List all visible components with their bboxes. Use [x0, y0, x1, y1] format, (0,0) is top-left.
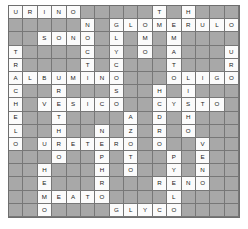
grid-cell-letter[interactable]: Y	[167, 98, 181, 111]
grid-cell-letter[interactable]: T	[81, 59, 95, 72]
grid-cell-letter[interactable]: O	[225, 19, 239, 32]
grid-cell-letter[interactable]: R	[52, 138, 66, 151]
grid-cell-letter[interactable]: H	[182, 112, 196, 125]
grid-cell-letter[interactable]: L	[110, 32, 124, 45]
grid-cell-letter[interactable]: N	[81, 19, 95, 32]
crossword-grid[interactable]: URINOTHNGLOMERULOSONOLMMTCYOAURTCTRALBUM…	[8, 5, 240, 218]
grid-cell-letter[interactable]: L	[124, 204, 138, 217]
grid-cell-letter[interactable]: M	[38, 191, 52, 204]
grid-cell-letter[interactable]: O	[81, 32, 95, 45]
grid-cell-letter[interactable]: T	[196, 98, 210, 111]
grid-cell-letter[interactable]: O	[210, 98, 224, 111]
grid-cell-letter[interactable]: G	[110, 204, 124, 217]
grid-cell-letter[interactable]: L	[124, 19, 138, 32]
grid-cell-letter[interactable]: R	[9, 59, 23, 72]
grid-cell-letter[interactable]: E	[52, 191, 66, 204]
grid-cell-letter[interactable]: I	[182, 85, 196, 98]
grid-cell-letter[interactable]: I	[81, 72, 95, 85]
grid-cell-letter[interactable]: O	[153, 138, 167, 151]
grid-cell-letter[interactable]: I	[81, 98, 95, 111]
grid-cell-letter[interactable]: H	[52, 125, 66, 138]
grid-cell-letter[interactable]: O	[196, 177, 210, 190]
grid-cell-letter[interactable]: H	[95, 164, 109, 177]
grid-cell-letter[interactable]: U	[38, 138, 52, 151]
grid-cell-letter[interactable]: O	[67, 6, 81, 19]
grid-cell-letter[interactable]: G	[210, 72, 224, 85]
grid-cell-letter[interactable]: R	[110, 138, 124, 151]
grid-cell-letter[interactable]: C	[9, 85, 23, 98]
grid-cell-letter[interactable]: L	[182, 72, 196, 85]
grid-cell-letter[interactable]: O	[52, 32, 66, 45]
grid-cell-letter[interactable]: M	[167, 32, 181, 45]
grid-cell-letter[interactable]: H	[182, 6, 196, 19]
grid-cell-letter[interactable]: E	[95, 138, 109, 151]
grid-cell-letter[interactable]: B	[38, 72, 52, 85]
grid-cell-letter[interactable]: R	[182, 19, 196, 32]
grid-cell-letter[interactable]: A	[9, 72, 23, 85]
grid-cell-letter[interactable]: O	[52, 151, 66, 164]
grid-cell-letter[interactable]: M	[67, 72, 81, 85]
grid-cell-letter[interactable]: S	[67, 98, 81, 111]
grid-cell-letter[interactable]: N	[52, 6, 66, 19]
grid-cell-letter[interactable]: N	[182, 177, 196, 190]
grid-cell-letter[interactable]: H	[153, 85, 167, 98]
grid-cell-letter[interactable]: Y	[138, 204, 152, 217]
grid-cell-letter[interactable]: T	[153, 6, 167, 19]
grid-cell-letter[interactable]: C	[81, 46, 95, 59]
grid-cell-letter[interactable]: L	[9, 125, 23, 138]
grid-cell-letter[interactable]: A	[124, 112, 138, 125]
grid-cell-letter[interactable]: H	[38, 164, 52, 177]
grid-cell-letter[interactable]: I	[38, 6, 52, 19]
grid-cell-letter[interactable]: S	[38, 32, 52, 45]
grid-cell-letter[interactable]: N	[95, 125, 109, 138]
grid-cell-letter[interactable]: O	[9, 138, 23, 151]
grid-cell-letter[interactable]: T	[81, 191, 95, 204]
grid-cell-letter[interactable]: I	[196, 72, 210, 85]
grid-cell-letter[interactable]: E	[167, 19, 181, 32]
grid-cell-letter[interactable]: E	[167, 177, 181, 190]
grid-cell-letter[interactable]: O	[225, 72, 239, 85]
grid-cell-letter[interactable]: U	[9, 6, 23, 19]
grid-cell-letter[interactable]: R	[153, 125, 167, 138]
grid-cell-letter[interactable]: V	[38, 98, 52, 111]
grid-cell-letter[interactable]: V	[196, 138, 210, 151]
grid-cell-letter[interactable]: E	[9, 112, 23, 125]
grid-cell-letter[interactable]: U	[225, 46, 239, 59]
grid-cell-letter[interactable]: O	[138, 46, 152, 59]
grid-cell-letter[interactable]: A	[167, 46, 181, 59]
grid-cell-letter[interactable]: O	[182, 125, 196, 138]
grid-cell-letter[interactable]: R	[52, 85, 66, 98]
grid-cell-letter[interactable]: R	[23, 6, 37, 19]
grid-cell-letter[interactable]: T	[81, 138, 95, 151]
grid-cell-letter[interactable]: G	[110, 19, 124, 32]
grid-cell-letter[interactable]: E	[38, 177, 52, 190]
grid-cell-letter[interactable]: O	[138, 19, 152, 32]
grid-cell-letter[interactable]: Y	[110, 46, 124, 59]
grid-cell-letter[interactable]: C	[153, 98, 167, 111]
grid-cell-letter[interactable]: E	[52, 98, 66, 111]
grid-cell-letter[interactable]: T	[124, 151, 138, 164]
grid-cell-letter[interactable]: L	[210, 19, 224, 32]
grid-cell-letter[interactable]: O	[167, 204, 181, 217]
grid-cell-letter[interactable]: S	[182, 98, 196, 111]
grid-cell-letter[interactable]: U	[52, 72, 66, 85]
grid-cell-letter[interactable]: T	[9, 46, 23, 59]
grid-cell-letter[interactable]: E	[67, 138, 81, 151]
grid-cell-letter[interactable]: O	[167, 72, 181, 85]
grid-cell-letter[interactable]: D	[153, 112, 167, 125]
grid-cell-letter[interactable]: M	[153, 19, 167, 32]
grid-cell-letter[interactable]: O	[124, 164, 138, 177]
grid-cell-letter[interactable]: T	[167, 59, 181, 72]
grid-cell-letter[interactable]: N	[95, 72, 109, 85]
grid-cell-letter[interactable]: L	[23, 72, 37, 85]
grid-cell-letter[interactable]: E	[196, 151, 210, 164]
grid-cell-letter[interactable]: C	[110, 59, 124, 72]
grid-cell-letter[interactable]: L	[167, 191, 181, 204]
grid-cell-letter[interactable]: C	[153, 204, 167, 217]
grid-cell-letter[interactable]: R	[225, 59, 239, 72]
grid-cell-letter[interactable]: O	[124, 138, 138, 151]
grid-cell-letter[interactable]: C	[95, 98, 109, 111]
grid-cell-letter[interactable]: N	[67, 32, 81, 45]
grid-cell-letter[interactable]: S	[110, 85, 124, 98]
grid-cell-letter[interactable]: P	[95, 151, 109, 164]
